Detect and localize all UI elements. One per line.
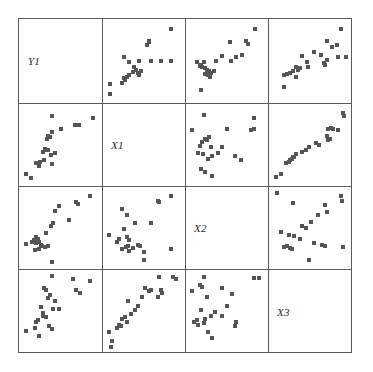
- data-point: [240, 53, 244, 57]
- data-point: [42, 158, 46, 162]
- scatter-panel-y1-vs-x3: [268, 19, 353, 103]
- data-point: [44, 231, 48, 235]
- data-point: [149, 59, 153, 63]
- data-point: [44, 315, 48, 319]
- data-point: [234, 55, 238, 59]
- data-point: [317, 143, 321, 147]
- data-point: [246, 42, 250, 46]
- data-point: [131, 70, 135, 74]
- data-point: [336, 128, 340, 132]
- panel-variable-label: X3: [277, 306, 290, 318]
- data-point: [190, 128, 194, 132]
- data-point: [306, 65, 310, 69]
- data-point: [214, 59, 218, 63]
- data-point: [127, 238, 131, 242]
- data-point: [29, 176, 33, 180]
- data-point: [157, 200, 161, 204]
- data-point: [57, 204, 61, 208]
- diagonal-panel-x2: X2: [185, 186, 268, 269]
- data-point: [110, 339, 114, 343]
- data-point: [341, 245, 345, 249]
- data-point: [142, 250, 146, 254]
- data-point: [196, 323, 200, 327]
- data-point: [344, 55, 348, 59]
- data-point: [142, 258, 146, 262]
- data-point: [156, 295, 160, 299]
- data-point: [196, 151, 200, 155]
- data-point: [149, 221, 153, 225]
- data-point: [44, 288, 48, 292]
- data-point: [209, 314, 213, 318]
- data-point: [46, 244, 50, 248]
- data-point: [300, 150, 304, 154]
- data-point: [88, 194, 92, 198]
- data-point: [294, 75, 298, 79]
- data-point: [126, 299, 130, 303]
- data-point: [39, 305, 43, 309]
- data-point: [325, 39, 329, 43]
- data-point: [78, 291, 82, 295]
- data-point: [319, 53, 323, 57]
- data-point: [199, 167, 203, 171]
- data-point: [257, 276, 261, 280]
- data-point: [230, 292, 234, 296]
- scatter-panel-y1-vs-x1: [102, 19, 185, 103]
- data-point: [198, 144, 202, 148]
- data-point: [133, 221, 137, 225]
- data-point: [284, 161, 288, 165]
- data-point: [326, 138, 330, 142]
- data-point: [207, 135, 211, 139]
- scatterplot-matrix-figure: Y1X1X2X3: [0, 0, 373, 372]
- data-point: [120, 81, 124, 85]
- data-point: [200, 285, 204, 289]
- data-point: [205, 295, 209, 299]
- data-point: [76, 202, 80, 206]
- data-point: [24, 329, 28, 333]
- data-point: [127, 60, 131, 64]
- data-point: [300, 224, 304, 228]
- data-point: [203, 317, 207, 321]
- data-point: [108, 92, 112, 96]
- data-point: [120, 247, 124, 251]
- data-point: [296, 68, 300, 72]
- data-point: [323, 63, 327, 67]
- data-point: [336, 55, 340, 59]
- data-point: [216, 151, 220, 155]
- data-point: [198, 64, 202, 68]
- diagonal-panel-x3: X3: [268, 269, 353, 354]
- data-point: [71, 277, 75, 281]
- data-point: [169, 194, 173, 198]
- scatter-panel-x2-vs-x1: [102, 186, 185, 269]
- data-point: [233, 154, 237, 158]
- scatter-panel-x2-vs-x3: [268, 186, 353, 269]
- data-point: [209, 145, 213, 149]
- scatter-panel-x2-vs-y1: [19, 186, 102, 269]
- data-point: [292, 234, 296, 238]
- data-point: [325, 210, 329, 214]
- data-point: [49, 153, 53, 157]
- data-point: [252, 116, 256, 120]
- data-point: [57, 307, 61, 311]
- data-point: [107, 233, 111, 237]
- data-point: [206, 330, 210, 334]
- data-point: [37, 334, 41, 338]
- data-point: [228, 40, 232, 44]
- diagonal-panel-y1: Y1: [19, 19, 102, 103]
- data-point: [210, 336, 214, 340]
- data-point: [91, 116, 95, 120]
- data-point: [53, 209, 57, 213]
- data-point: [138, 244, 142, 248]
- data-point: [129, 312, 133, 316]
- data-point: [195, 60, 199, 64]
- data-point: [305, 60, 309, 64]
- data-point: [109, 345, 113, 349]
- data-point: [46, 296, 50, 300]
- data-point: [208, 75, 212, 79]
- data-point: [312, 241, 316, 245]
- data-point: [342, 114, 346, 118]
- data-point: [339, 194, 343, 198]
- data-point: [67, 218, 71, 222]
- data-point: [53, 151, 57, 155]
- data-point: [312, 50, 316, 54]
- data-point: [279, 172, 283, 176]
